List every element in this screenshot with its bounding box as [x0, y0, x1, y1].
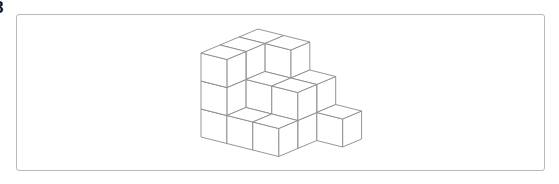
unit-cube [272, 78, 317, 121]
unit-cube [317, 105, 362, 148]
unit-cube [253, 114, 298, 157]
cube-stack-diagram [0, 0, 559, 184]
unit-cube [201, 45, 246, 88]
unit-cube [265, 36, 310, 79]
cube-layer [201, 29, 362, 157]
